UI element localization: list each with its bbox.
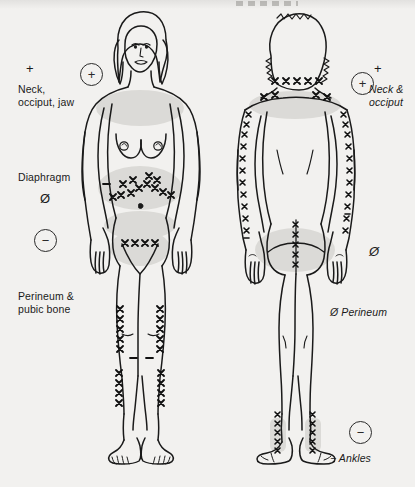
body-chart-diagram: + + Neck, occiput, jaw Diaphragm Ø − Per… (0, 0, 415, 487)
perineum-front-label: Perineum & pubic bone (18, 290, 74, 316)
perineum-front-badge: − (34, 229, 57, 252)
ankles-badge: − (349, 421, 372, 444)
neck-front-label: Neck, occiput, jaw (18, 83, 74, 109)
perineum-back-label: Ø Perineum (330, 306, 387, 319)
neck-front-badge: + (80, 63, 103, 86)
diaphragm-label: Diaphragm (18, 171, 70, 184)
back-view-figure (215, 0, 375, 487)
ankles-label: − Ankles (330, 452, 371, 465)
perineum-front-badge-symbol: − (35, 230, 56, 251)
neck-front-plus-symbol: + (26, 62, 34, 75)
neck-back-plus-symbol: + (374, 62, 382, 75)
tender-point-marks-right-arm (341, 112, 352, 233)
neck-back-label: Neck & occiput (369, 83, 403, 109)
body-minus-marks (103, 184, 153, 358)
buttock-zero-symbol: Ø (369, 245, 379, 258)
tender-point-marks-left-arm (240, 112, 251, 233)
diaphragm-zero-symbol: Ø (40, 192, 50, 205)
ankles-badge-symbol: − (350, 422, 371, 443)
neck-front-badge-symbol: + (81, 64, 102, 85)
tender-point-marks-occiput (272, 78, 322, 84)
